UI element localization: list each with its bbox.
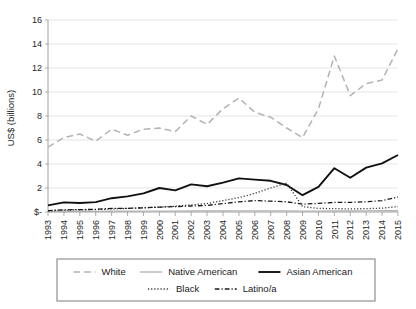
chart-container: $-246810121416 1993199419951996199719981… [0, 0, 416, 309]
gridlines-group [48, 20, 398, 188]
x-tick-label: 2000 [155, 220, 165, 240]
y-tick-label: 8 [37, 111, 42, 121]
legend-label: Asian American [286, 266, 352, 277]
x-tick-label: 2010 [314, 220, 324, 240]
line-chart: $-246810121416 1993199419951996199719981… [0, 0, 416, 309]
x-tick-label: 2005 [234, 220, 244, 240]
y-tick-label: 16 [32, 15, 42, 25]
legend-item-white[interactable]: White [73, 266, 125, 277]
y-tick-label: 12 [32, 63, 42, 73]
x-tick-label: 1994 [59, 220, 69, 240]
x-axis-tick-labels: 1993199419951996199719981999200020012002… [43, 212, 403, 240]
x-tick-label: 1999 [139, 220, 149, 240]
y-axis-tick-labels: $-246810121416 [32, 15, 48, 217]
x-tick-label: 2001 [170, 220, 180, 240]
legend-item-native-american[interactable]: Native American [140, 266, 237, 277]
x-tick-label: 2015 [393, 220, 403, 240]
legend-label: White [101, 266, 125, 277]
series-line-asian-american [48, 155, 398, 205]
x-tick-label: 2009 [298, 220, 308, 240]
x-tick-label: 2011 [330, 220, 340, 239]
legend-label: Latino/a [243, 283, 278, 294]
legend-item-asian-american[interactable]: Asian American [258, 266, 352, 277]
x-tick-label: 2002 [186, 220, 196, 240]
series-line-native-american [48, 211, 398, 212]
x-tick-label: 1998 [123, 220, 133, 240]
x-tick-label: 2003 [202, 220, 212, 240]
x-tick-label: 2008 [282, 220, 292, 240]
x-tick-label: 2013 [361, 220, 371, 240]
y-axis-title: US$ (billions) [5, 90, 16, 147]
legend-label: Native American [168, 266, 237, 277]
y-tick-label: 4 [37, 159, 42, 169]
x-tick-label: 1997 [107, 220, 117, 240]
y-tick-label: 2 [37, 183, 42, 193]
x-tick-label: 2006 [250, 220, 260, 240]
legend-item-black[interactable]: Black [148, 283, 199, 294]
x-tick-label: 2004 [218, 220, 228, 240]
series-line-black [48, 183, 398, 211]
x-tick-label: 1996 [91, 220, 101, 240]
series-line-white [48, 49, 398, 147]
legend-label: Black [176, 283, 199, 294]
x-tick-label: 2014 [377, 220, 387, 240]
y-tick-label: $- [34, 207, 42, 217]
series-group [48, 49, 398, 212]
y-tick-label: 10 [32, 87, 42, 97]
chart-legend: WhiteNative AmericanAsian AmericanBlackL… [57, 259, 375, 301]
x-tick-label: 2007 [266, 220, 276, 240]
x-tick-label: 2012 [345, 220, 355, 240]
legend-item-latino-a[interactable]: Latino/a [215, 283, 278, 294]
y-tick-label: 14 [32, 39, 42, 49]
legend-border [57, 259, 375, 301]
x-tick-label: 1995 [75, 220, 85, 240]
x-tick-label: 1993 [43, 220, 53, 240]
y-tick-label: 6 [37, 135, 42, 145]
